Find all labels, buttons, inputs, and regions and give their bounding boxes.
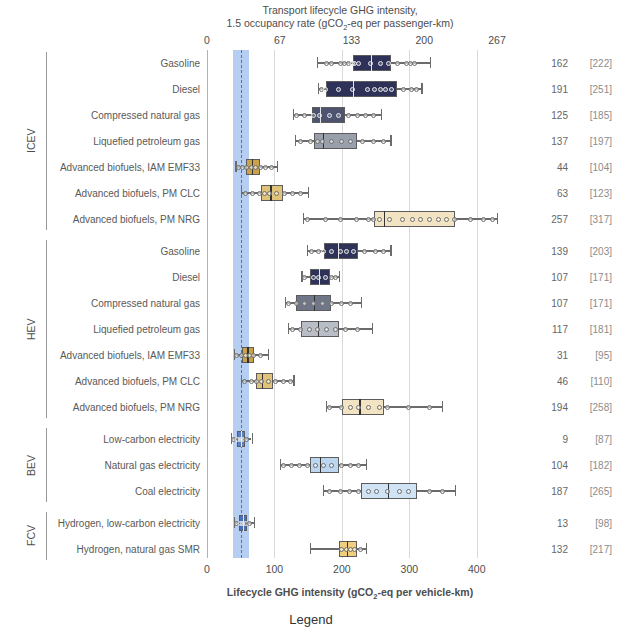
bracket-value: [110]: [576, 376, 612, 387]
data-point: [316, 275, 321, 280]
whisker-cap: [252, 433, 253, 444]
legend-heading: Legend: [0, 612, 622, 627]
median-value: 104: [540, 460, 568, 471]
whisker-cap: [268, 349, 269, 360]
data-point: [311, 275, 316, 280]
bottom-axis-title: Lifecycle GHG intensity (gCO2-eq per veh…: [190, 586, 510, 601]
data-point: [389, 87, 394, 92]
data-point: [263, 165, 268, 170]
bracket-value: [222]: [576, 58, 612, 69]
data-point: [356, 61, 361, 66]
data-point: [234, 353, 239, 358]
data-point: [317, 113, 322, 118]
boxplot: [207, 316, 497, 342]
whisker-cap: [277, 161, 278, 172]
boxplot: [207, 426, 497, 452]
data-point: [302, 275, 307, 280]
data-point: [250, 191, 255, 196]
data-point: [262, 191, 267, 196]
data-point: [366, 217, 371, 222]
data-point: [298, 191, 303, 196]
data-point: [259, 379, 264, 384]
whisker-cap: [241, 187, 242, 198]
data-point: [452, 217, 457, 222]
bracket-value: [98]: [576, 518, 612, 529]
data-point: [365, 87, 370, 92]
bracket-value: [185]: [576, 110, 612, 121]
data-point: [339, 405, 344, 410]
data-point: [339, 301, 344, 306]
top-axis-tick: 200: [415, 34, 433, 46]
top-axis-title-line1: Transport lifecycle GHG intensity,: [180, 4, 500, 17]
top-axis-tick: 267: [488, 34, 506, 46]
data-point: [323, 87, 328, 92]
median-value: 191: [540, 84, 568, 95]
whisker-cap: [308, 187, 309, 198]
data-point: [249, 379, 254, 384]
median-value: 137: [540, 136, 568, 147]
whisker-cap: [497, 213, 498, 224]
chart-figure: Transport lifecycle GHG intensity, 1.5 o…: [0, 0, 622, 632]
median-value: 107: [540, 298, 568, 309]
data-point: [320, 139, 325, 144]
data-point: [351, 249, 356, 254]
median-value: 31: [540, 350, 568, 361]
data-point: [371, 139, 376, 144]
data-point: [281, 463, 286, 468]
data-point: [348, 405, 353, 410]
data-point: [371, 113, 376, 118]
data-point: [368, 61, 373, 66]
bracket-value: [197]: [576, 136, 612, 147]
median-value: 162: [540, 58, 568, 69]
whisker-cap: [366, 543, 367, 554]
bottom-axis-tick: 300: [401, 563, 419, 575]
bottom-axis-tick: 0: [204, 563, 210, 575]
group-bracket: [46, 512, 47, 560]
data-point: [329, 301, 334, 306]
group-label: ICEV: [18, 52, 44, 230]
whisker-cap: [390, 135, 391, 146]
data-point: [333, 275, 338, 280]
data-point: [409, 87, 414, 92]
data-point: [338, 217, 343, 222]
whisker-cap: [381, 109, 382, 120]
data-point: [383, 87, 388, 92]
data-point: [290, 327, 295, 332]
bracket-value: [87]: [576, 434, 612, 445]
data-point: [338, 489, 343, 494]
data-point: [298, 327, 303, 332]
boxplot: [207, 452, 497, 478]
data-point: [339, 547, 344, 552]
data-point: [366, 489, 371, 494]
whisker-cap: [366, 459, 367, 470]
bracket-value: [181]: [576, 324, 612, 335]
data-point: [267, 191, 272, 196]
bracket-value: [203]: [576, 246, 612, 257]
median-value: 44: [540, 162, 568, 173]
data-point: [269, 165, 274, 170]
bracket-value: [171]: [576, 272, 612, 283]
median-value: 132: [540, 544, 568, 555]
data-point: [401, 87, 406, 92]
data-point: [356, 463, 361, 468]
data-point: [427, 217, 432, 222]
data-point: [309, 249, 314, 254]
data-point: [243, 191, 248, 196]
data-point: [381, 139, 386, 144]
top-axis-title: Transport lifecycle GHG intensity, 1.5 o…: [180, 4, 500, 34]
bracket-value: [217]: [576, 544, 612, 555]
data-point: [302, 113, 307, 118]
data-point: [406, 405, 411, 410]
data-point: [354, 217, 359, 222]
data-point: [373, 249, 378, 254]
data-point: [481, 217, 486, 222]
median-value: 125: [540, 110, 568, 121]
data-point: [294, 301, 299, 306]
data-point: [258, 165, 263, 170]
whisker-cap: [430, 57, 431, 68]
whisker-cap: [317, 57, 318, 68]
data-point: [288, 379, 293, 384]
plot-area: [207, 50, 497, 558]
bottom-axis-tick: 100: [266, 563, 284, 575]
data-point: [395, 61, 400, 66]
